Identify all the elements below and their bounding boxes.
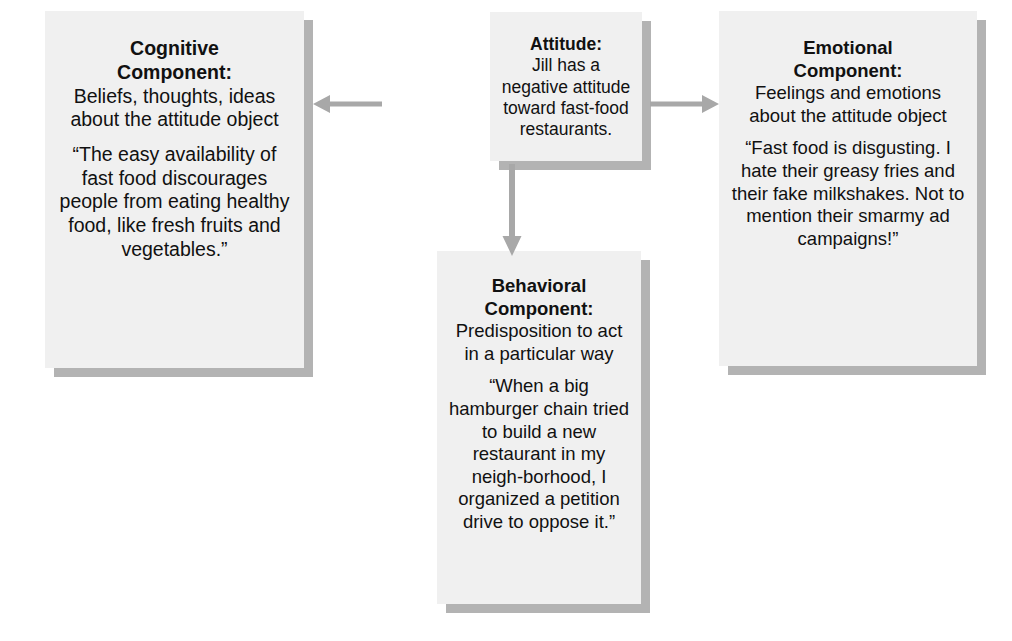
emotional-description: Feelings and emotions about the attitude… bbox=[731, 82, 965, 127]
attitude-box: Attitude: Jill has a negative attitude t… bbox=[490, 12, 642, 161]
behavioral-title-line2: Component: bbox=[447, 298, 631, 321]
arrow-down-icon bbox=[500, 164, 524, 259]
cognitive-quote: “The easy availability of fast food disc… bbox=[57, 143, 292, 262]
arrow-right-icon bbox=[650, 92, 722, 116]
behavioral-description: Predisposition to act in a particular wa… bbox=[447, 320, 631, 365]
cognitive-component-box: Cognitive Component: Beliefs, thoughts, … bbox=[45, 11, 304, 368]
attitude-title: Attitude: bbox=[498, 34, 634, 55]
cognitive-description: Beliefs, thoughts, ideas about the attit… bbox=[57, 85, 292, 133]
emotional-title-line1: Emotional bbox=[731, 37, 965, 60]
emotional-quote: “Fast food is disgusting. I hate their g… bbox=[731, 137, 965, 250]
behavioral-title-line1: Behavioral bbox=[447, 275, 631, 298]
behavioral-component-box: Behavioral Component: Predisposition to … bbox=[437, 251, 641, 604]
arrow-left-icon bbox=[310, 92, 382, 116]
emotional-title-line2: Component: bbox=[731, 60, 965, 83]
attitude-description: Jill has a negative attitude toward fast… bbox=[498, 55, 634, 140]
cognitive-title-line2: Component: bbox=[57, 61, 292, 85]
cognitive-title-line1: Cognitive bbox=[57, 37, 292, 61]
diagram-canvas: Cognitive Component: Beliefs, thoughts, … bbox=[0, 0, 1012, 641]
behavioral-quote: “When a big hamburger chain tried to bui… bbox=[447, 375, 631, 533]
emotional-component-box: Emotional Component: Feelings and emotio… bbox=[719, 11, 977, 366]
